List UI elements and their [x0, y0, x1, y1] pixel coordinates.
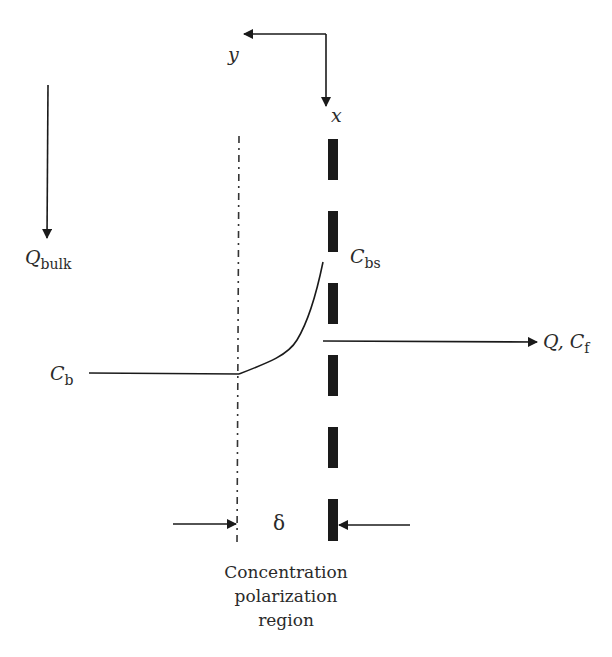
c-b-sub: b	[65, 372, 74, 388]
c-bs-main: C	[350, 245, 365, 267]
diagram-graphics	[0, 0, 612, 657]
c-bs-label: Cbs	[350, 245, 381, 267]
c-b-label: Cb	[50, 362, 74, 384]
permeate-flow-arrow	[323, 341, 537, 342]
q-cf-label: Q, Cf	[543, 330, 589, 352]
c-bs-sub: bs	[365, 255, 381, 271]
q-bulk-label: Qbulk	[25, 246, 72, 268]
c-b-main: C	[50, 362, 65, 384]
caption-line-1: Concentration	[186, 560, 386, 584]
bulk-concentration-line	[89, 373, 239, 374]
membrane	[328, 139, 338, 541]
y-axis-label: y	[228, 43, 239, 65]
q-cf-main: Q, C	[543, 330, 584, 352]
x-axis-label: x	[331, 104, 342, 126]
q-bulk-main: Q	[25, 246, 41, 268]
q-cf-sub: f	[584, 340, 589, 356]
region-caption: Concentration polarization region	[186, 560, 386, 632]
boundary-layer-edge-line	[237, 136, 239, 546]
caption-line-3: region	[186, 608, 386, 632]
caption-line-2: polarization	[186, 584, 386, 608]
q-bulk-sub: bulk	[41, 256, 72, 272]
concentration-profile-curve	[239, 262, 323, 374]
delta-label: δ	[273, 511, 285, 535]
bulk-flow-arrow	[47, 85, 48, 238]
diagram-canvas: y x Qbulk Cb Cbs Q, Cf δ Concentration p…	[0, 0, 612, 657]
coordinate-axes	[244, 34, 326, 106]
